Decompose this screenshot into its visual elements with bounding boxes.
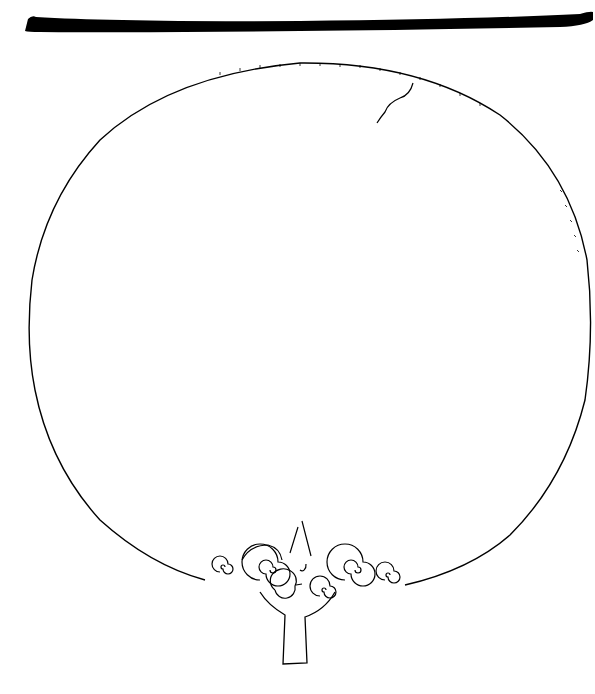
handle-tang xyxy=(260,592,335,664)
mirror-drawing xyxy=(0,0,595,694)
crack xyxy=(377,83,413,123)
profile-section xyxy=(25,12,593,33)
spiral-ornament-left xyxy=(212,544,290,586)
mirror-disc xyxy=(29,63,590,585)
spiral-ornament-right xyxy=(296,544,400,598)
edge-hatching xyxy=(220,63,579,252)
central-spike xyxy=(290,521,311,556)
